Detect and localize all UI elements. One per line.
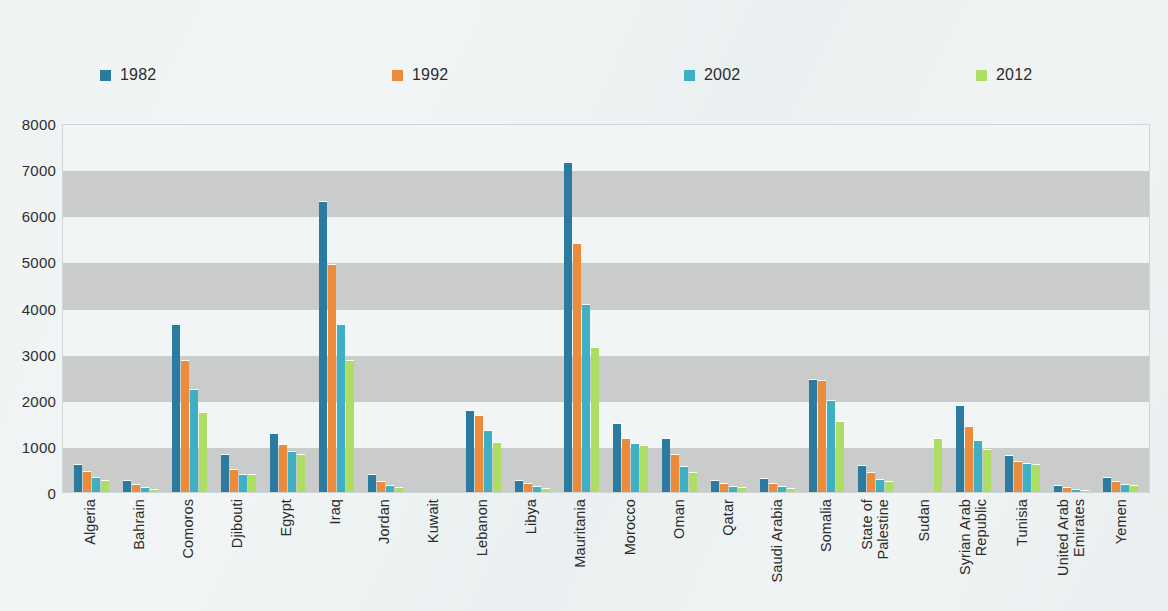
x-tick-label: Lebanon (475, 499, 491, 556)
x-tick-label: Morocco (623, 499, 639, 555)
bar (738, 487, 746, 492)
x-tick-label: Kuwait (426, 499, 442, 543)
bar (631, 443, 639, 492)
bar (92, 477, 100, 492)
legend-swatch-icon (100, 70, 111, 81)
bar (573, 243, 581, 492)
bar (533, 486, 541, 492)
bar (1014, 461, 1022, 492)
x-tick-label: Egypt (279, 499, 295, 537)
x-tick-label-cell: Libya (508, 496, 557, 611)
bar (395, 487, 403, 492)
bar (787, 488, 795, 492)
bar (1112, 481, 1120, 492)
x-tick-label-cell: Comoros (164, 496, 213, 611)
bar-group (851, 125, 900, 492)
x-tick-label: Comoros (181, 499, 197, 559)
x-tick-label: Djibouti (230, 499, 246, 548)
bar (613, 423, 621, 492)
x-tick-label: State ofPalestine (860, 499, 891, 560)
bar-groups (63, 125, 1149, 492)
x-tick-label: Sudan (917, 499, 933, 541)
bar-group (557, 125, 606, 492)
x-tick-label-cell: Jordan (361, 496, 410, 611)
x-tick-label: Saudi Arabia (770, 499, 786, 582)
bar (377, 481, 385, 492)
bar (493, 442, 501, 492)
bar (1063, 487, 1071, 492)
x-tick-label: Yemen (1114, 499, 1130, 544)
bar (172, 324, 180, 492)
bar (1130, 485, 1138, 492)
bar (368, 474, 376, 492)
x-tick-label-cell: Syrian ArabRepublic (950, 496, 999, 611)
bar (337, 324, 345, 492)
x-tick-label: Qatar (721, 499, 737, 536)
bar (239, 474, 247, 492)
bar (582, 304, 590, 492)
legend-item-1992: 1992 (292, 66, 584, 84)
bar (101, 480, 109, 492)
legend-label: 2012 (996, 66, 1032, 84)
x-tick-label-cell: Mauritania (557, 496, 606, 611)
y-tick-label: 2000 (22, 392, 56, 409)
bar (123, 480, 131, 492)
bar (809, 379, 817, 492)
bar (778, 486, 786, 492)
bar-group (655, 125, 704, 492)
bar (181, 360, 189, 492)
y-tick-label: 8000 (22, 116, 56, 133)
bar-group (1047, 125, 1096, 492)
bar-group (214, 125, 263, 492)
bar (542, 488, 550, 492)
bar (74, 464, 82, 492)
legend-label: 1982 (120, 66, 156, 84)
bar (591, 347, 599, 492)
bar (711, 480, 719, 492)
legend-swatch-icon (684, 70, 695, 81)
x-tick-label: Libya (525, 499, 541, 534)
bar (83, 471, 91, 492)
bar (319, 201, 327, 493)
x-tick-label-cell: Oman (655, 496, 704, 611)
x-tick-label: Syrian ArabRepublic (959, 499, 990, 575)
bar (760, 478, 768, 492)
bar (769, 483, 777, 492)
x-tick-label-cell: United ArabEmirates (1048, 496, 1097, 611)
legend-label: 1992 (412, 66, 448, 84)
bar-group (900, 125, 949, 492)
bar-group (361, 125, 410, 492)
bar (1081, 490, 1089, 492)
x-tick-label: Oman (672, 499, 688, 539)
bar (818, 380, 826, 492)
x-tick-label-cell: Saudi Arabia (753, 496, 802, 611)
bar (190, 389, 198, 492)
bar (1054, 485, 1062, 492)
x-tick-label-cell: Algeria (66, 496, 115, 611)
legend-swatch-icon (392, 70, 403, 81)
x-tick-label: Mauritania (574, 499, 590, 568)
bar (221, 454, 229, 492)
x-tick-label: Bahrain (132, 499, 148, 550)
legend-swatch-icon (976, 70, 987, 81)
x-tick-label: Iraq (328, 499, 344, 524)
bar (230, 469, 238, 492)
x-tick-label-cell: Iraq (311, 496, 360, 611)
bar (564, 162, 572, 492)
bar (288, 451, 296, 493)
bar (1032, 464, 1040, 492)
legend-item-2012: 2012 (876, 66, 1168, 84)
bar (983, 449, 991, 492)
y-tick-label: 7000 (22, 162, 56, 179)
chart-page: 1982199220022012 80007000600050004000300… (0, 0, 1168, 611)
bar (466, 410, 474, 492)
x-tick-label-cell: Djibouti (213, 496, 262, 611)
bar (1121, 484, 1129, 492)
x-tick-label-cell: Yemen (1097, 496, 1146, 611)
bar (827, 400, 835, 492)
bar (484, 430, 492, 492)
x-tick-label-cell: Somalia (802, 496, 851, 611)
x-tick-label: Jordan (377, 499, 393, 544)
bar (720, 483, 728, 492)
x-axis: AlgeriaBahrainComorosDjiboutiEgyptIraqJo… (62, 496, 1150, 611)
